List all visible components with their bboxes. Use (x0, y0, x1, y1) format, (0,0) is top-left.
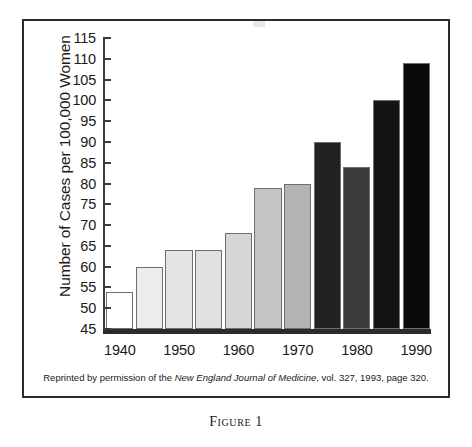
y-tick-label: 105 (52, 72, 96, 88)
y-tick-label: 80 (52, 176, 96, 192)
x-tick-label: 1940 (104, 342, 135, 358)
bar (225, 233, 252, 329)
bar (136, 267, 163, 329)
y-tick-mark (103, 224, 111, 226)
bar (165, 250, 192, 329)
y-tick-mark (103, 307, 111, 309)
x-axis-tick-labels: 194019501960197019801990 (105, 342, 431, 362)
x-tick-label: 1950 (163, 342, 194, 358)
y-tick-mark (103, 58, 111, 60)
x-axis-baseline (103, 329, 431, 334)
y-tick-mark (103, 328, 111, 330)
bar-chart: Number of Cases per 100,000 Women 455055… (24, 21, 448, 396)
y-tick-label: 110 (52, 51, 96, 67)
y-tick-mark (103, 245, 111, 247)
y-axis-tick-labels: 4550556065707580859095100105110115 (52, 21, 96, 396)
x-tick-label: 1980 (341, 342, 372, 358)
y-tick-label: 45 (52, 321, 96, 337)
bar (106, 292, 133, 329)
bar (403, 63, 430, 329)
bar (284, 184, 311, 330)
bar (373, 100, 400, 329)
y-tick-mark (103, 286, 111, 288)
y-tick-mark (103, 37, 111, 39)
y-tick-mark (103, 79, 111, 81)
bar (343, 167, 370, 329)
y-tick-mark (103, 203, 111, 205)
bar (314, 142, 341, 329)
y-tick-label: 115 (52, 30, 96, 46)
y-tick-mark (103, 162, 111, 164)
credit-source-title: New England Journal of Medicine (175, 372, 317, 383)
figure-box: Number of Cases per 100,000 Women 455055… (22, 19, 450, 398)
bar (195, 250, 222, 329)
credit-suffix: , vol. 327, 1993, page 320. (316, 372, 429, 383)
y-tick-label: 90 (52, 134, 96, 150)
y-tick-label: 55 (52, 279, 96, 295)
y-tick-mark (103, 99, 111, 101)
y-tick-label: 75 (52, 196, 96, 212)
figure-caption: Figure 1 (0, 414, 472, 430)
source-credit: Reprinted by permission of the New Engla… (24, 372, 448, 383)
x-tick-label: 1970 (282, 342, 313, 358)
y-tick-mark (103, 266, 111, 268)
credit-prefix: Reprinted by permission of the (43, 372, 174, 383)
y-tick-mark (103, 141, 111, 143)
x-tick-label: 1990 (400, 342, 431, 358)
y-tick-mark (103, 120, 111, 122)
plot-area (105, 38, 431, 329)
y-tick-label: 65 (52, 238, 96, 254)
y-tick-label: 85 (52, 155, 96, 171)
bar (254, 188, 281, 329)
y-tick-label: 70 (52, 217, 96, 233)
x-tick-label: 1960 (223, 342, 254, 358)
y-tick-label: 60 (52, 259, 96, 275)
y-tick-mark (103, 183, 111, 185)
y-tick-label: 95 (52, 113, 96, 129)
y-tick-label: 100 (52, 92, 96, 108)
y-tick-label: 50 (52, 300, 96, 316)
